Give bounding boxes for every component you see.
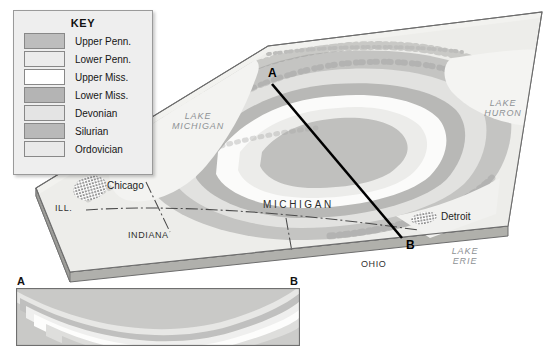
key-swatch-ordovician: [24, 141, 65, 157]
figure-root: WIS. ILL. INDIANA OHIO MICHIGAN LAKE MIC…: [0, 0, 560, 363]
key-row-lower-miss: Lower Miss.: [14, 86, 152, 104]
key-row-ordovician: Ordovician: [14, 140, 152, 158]
key-row-silurian: Silurian: [14, 122, 152, 140]
key-label-silurian: Silurian: [75, 126, 108, 137]
key-row-upper-miss: Upper Miss.: [14, 68, 152, 86]
cross-section-panel: A B: [16, 288, 300, 346]
key-label-upper-penn: Upper Penn.: [75, 36, 131, 47]
key-row-devonian: Devonian: [14, 104, 152, 122]
key-label-devonian: Devonian: [75, 108, 117, 119]
key-row-lower-penn: Lower Penn.: [14, 50, 152, 68]
key-swatch-silurian: [24, 123, 65, 139]
xs-endpoint-b-label: B: [290, 275, 298, 287]
key-label-lower-penn: Lower Penn.: [75, 54, 131, 65]
key-legend: KEY Upper Penn. Lower Penn. Upper Miss. …: [13, 10, 153, 175]
key-swatch-upper-miss: [24, 69, 65, 85]
key-swatch-devonian: [24, 105, 65, 121]
key-swatch-upper-penn: [24, 33, 65, 49]
key-label-ordovician: Ordovician: [75, 144, 123, 155]
key-label-upper-miss: Upper Miss.: [75, 72, 128, 83]
key-row-upper-penn: Upper Penn.: [14, 32, 152, 50]
key-swatch-lower-miss: [24, 87, 65, 103]
xs-endpoint-a-label: A: [17, 275, 25, 287]
key-swatch-lower-penn: [24, 51, 65, 67]
key-title: KEY: [14, 17, 152, 29]
key-label-lower-miss: Lower Miss.: [75, 90, 128, 101]
cross-section-svg: [16, 288, 300, 346]
xs-wash: [16, 288, 300, 346]
